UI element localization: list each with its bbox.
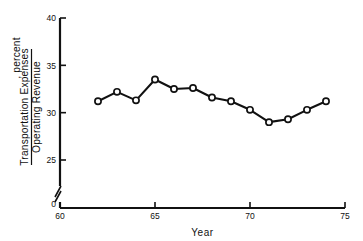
data-marker-group <box>95 76 329 125</box>
data-point-marker <box>209 94 215 100</box>
x-tick-label: 65 <box>150 211 160 221</box>
x-tick-label: 75 <box>340 211 350 221</box>
data-point-marker <box>228 98 234 104</box>
y-axis-suffix: , percent <box>11 37 22 78</box>
x-axis-title: Year <box>191 227 214 238</box>
y-tick-label: 25 <box>47 155 57 165</box>
data-point-marker <box>266 119 272 125</box>
data-point-marker <box>95 98 101 104</box>
data-point-marker <box>133 97 139 103</box>
line-chart: 25303540060657075YearTransportation Expe… <box>0 0 363 241</box>
data-point-marker <box>285 116 291 122</box>
data-point-marker <box>323 98 329 104</box>
y-tick-label: 30 <box>47 108 57 118</box>
y-tick-label: 40 <box>47 13 57 23</box>
x-tick-group: 60657075 <box>55 202 350 221</box>
data-point-marker <box>171 86 177 92</box>
data-point-marker <box>114 89 120 95</box>
y-axis-denominator: Operating Revenue <box>31 61 42 153</box>
x-tick-label: 70 <box>245 211 255 221</box>
x-tick-label: 60 <box>55 211 65 221</box>
data-point-marker <box>304 107 310 113</box>
data-point-marker <box>190 85 196 91</box>
data-point-marker <box>152 76 158 82</box>
y-tick-group: 253035400 <box>47 13 66 209</box>
y-zero-label: 0 <box>51 199 56 209</box>
y-axis-title-group: Transportation ExpensesOperating Revenue… <box>11 37 42 165</box>
data-point-marker <box>247 107 253 113</box>
chart-container: 25303540060657075YearTransportation Expe… <box>0 0 363 241</box>
y-tick-label: 35 <box>47 61 57 71</box>
